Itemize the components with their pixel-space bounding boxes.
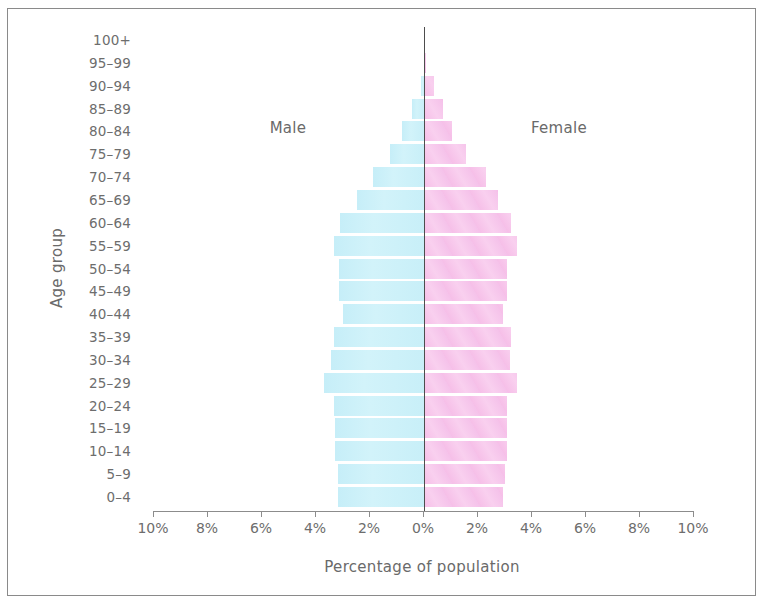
age-group-label: 50–54	[89, 261, 131, 277]
male-bar	[412, 99, 424, 119]
female-bar	[425, 304, 503, 324]
age-group-label: 40–44	[89, 306, 131, 322]
female-bar	[425, 350, 510, 370]
male-bar	[334, 236, 424, 256]
female-bar	[425, 373, 517, 393]
y-axis-label: Age group	[48, 228, 66, 308]
x-tick-label: 10%	[137, 520, 168, 536]
age-group-label: 5–9	[106, 466, 131, 482]
x-tick-label: 10%	[677, 520, 708, 536]
female-bar	[425, 99, 443, 119]
age-group-label: 85–89	[89, 101, 131, 117]
x-tick-label: 0%	[412, 520, 434, 536]
female-bar	[425, 76, 434, 96]
age-group-label: 10–14	[89, 443, 131, 459]
age-group-label: 55–59	[89, 238, 131, 254]
x-tick-label: 6%	[574, 520, 596, 536]
x-tick	[153, 511, 154, 517]
female-bar	[425, 281, 507, 301]
x-tick-label: 8%	[196, 520, 218, 536]
age-group-label: 75–79	[89, 146, 131, 162]
male-bar	[338, 487, 424, 507]
female-bar	[425, 190, 498, 210]
male-bar	[339, 281, 424, 301]
female-bar	[425, 213, 511, 233]
male-bar	[373, 167, 424, 187]
chart-frame	[7, 8, 756, 596]
age-group-label: 95–99	[89, 55, 131, 71]
x-tick	[207, 511, 208, 517]
male-bar	[331, 350, 424, 370]
age-group-label: 70–74	[89, 169, 131, 185]
age-group-label: 80–84	[89, 123, 131, 139]
age-group-label: 100+	[93, 32, 131, 48]
age-group-label: 25–29	[89, 375, 131, 391]
male-bar	[390, 144, 424, 164]
male-bar	[335, 441, 424, 461]
female-bar	[425, 167, 486, 187]
x-tick	[585, 511, 586, 517]
male-bar	[340, 213, 424, 233]
female-bar	[425, 144, 466, 164]
female-bar	[425, 53, 426, 73]
female-bar	[425, 396, 507, 416]
age-group-label: 0–4	[106, 489, 131, 505]
male-bar	[338, 464, 424, 484]
male-bar	[357, 190, 425, 210]
x-axis-label: Percentage of population	[324, 558, 519, 576]
x-tick	[531, 511, 532, 517]
zero-axis-line	[424, 27, 425, 512]
female-bar	[425, 327, 511, 347]
age-group-label: 60–64	[89, 215, 131, 231]
male-bar	[334, 327, 424, 347]
female-bar	[425, 121, 452, 141]
x-tick	[477, 511, 478, 517]
age-group-label: 15–19	[89, 420, 131, 436]
age-group-label: 45–49	[89, 283, 131, 299]
female-bar	[425, 259, 507, 279]
female-bar	[425, 418, 507, 438]
male-bar	[334, 396, 424, 416]
x-tick	[315, 511, 316, 517]
age-group-label: 35–39	[89, 329, 131, 345]
x-tick	[693, 511, 694, 517]
x-tick	[261, 511, 262, 517]
x-tick-label: 4%	[304, 520, 326, 536]
female-bar	[425, 441, 507, 461]
x-tick-label: 6%	[250, 520, 272, 536]
male-bar	[335, 418, 424, 438]
male-bar	[402, 121, 424, 141]
male-label: Male	[270, 119, 307, 137]
female-label: Female	[531, 119, 587, 137]
age-group-label: 20–24	[89, 398, 131, 414]
x-tick-label: 4%	[520, 520, 542, 536]
age-group-label: 90–94	[89, 78, 131, 94]
female-bar	[425, 487, 503, 507]
x-tick-label: 2%	[466, 520, 488, 536]
x-tick-label: 2%	[358, 520, 380, 536]
female-bar	[425, 464, 505, 484]
x-tick	[639, 511, 640, 517]
male-bar	[324, 373, 424, 393]
x-tick	[369, 511, 370, 517]
x-tick	[423, 511, 424, 517]
male-bar	[343, 304, 424, 324]
age-group-label: 30–34	[89, 352, 131, 368]
age-group-label: 65–69	[89, 192, 131, 208]
x-tick-label: 8%	[628, 520, 650, 536]
male-bar	[339, 259, 424, 279]
female-bar	[425, 236, 517, 256]
